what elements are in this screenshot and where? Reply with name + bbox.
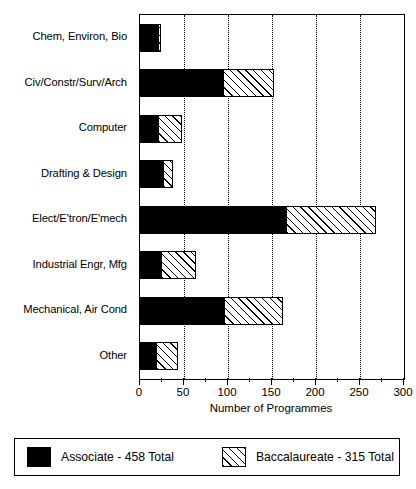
x-tick-major-0 <box>139 378 140 385</box>
bar-segment-baccalaureate[interactable] <box>159 115 182 143</box>
x-tick-major-150 <box>271 378 272 385</box>
x-tick-major-50 <box>183 378 184 385</box>
bar-row <box>140 288 404 334</box>
bar-stack[interactable] <box>140 297 283 325</box>
category-label-row: Industrial Engr, Mfg <box>0 242 133 288</box>
legend-item-baccalaureate: Baccalaureate - 315 Total <box>222 439 394 475</box>
x-tick-minor-225 <box>337 378 338 382</box>
chart-plot-region: Chem, Environ, Bio Civ/Constr/Surv/Arch … <box>0 0 416 420</box>
bar-row <box>140 106 404 152</box>
bar-segment-baccalaureate[interactable] <box>164 160 173 188</box>
bar-segment-associate[interactable] <box>140 342 157 370</box>
category-label-chem-environ-bio: Chem, Environ, Bio <box>32 31 133 42</box>
x-tick-major-100 <box>227 378 228 385</box>
bar-row <box>140 334 404 380</box>
legend-item-associate: Associate - 458 Total <box>27 439 174 475</box>
bar-stack[interactable] <box>140 24 161 52</box>
category-label-row: Elect/E'tron/E'mech <box>0 196 133 242</box>
bar-stack[interactable] <box>140 251 196 279</box>
bar-segment-baccalaureate[interactable] <box>159 24 161 52</box>
bar-row <box>140 197 404 243</box>
category-label-other: Other <box>100 350 133 361</box>
category-label-elect-etron-emech: Elect/E'tron/E'mech <box>32 213 133 224</box>
x-axis-ticks <box>139 378 403 386</box>
x-tick-label-50: 50 <box>177 387 190 399</box>
x-tick-label-300: 300 <box>393 387 412 399</box>
plot-frame <box>139 14 405 380</box>
bar-stack[interactable] <box>140 342 178 370</box>
bar-row <box>140 152 404 198</box>
legend-swatch-associate-icon <box>27 447 51 467</box>
x-tick-label-150: 150 <box>261 387 280 399</box>
x-tick-minor-125 <box>249 378 250 382</box>
chart-legend: Associate - 458 Total Baccalaureate - 31… <box>14 438 400 476</box>
bar-stack[interactable] <box>140 206 376 234</box>
bar-segment-associate[interactable] <box>140 206 287 234</box>
bar-chart-figure: Chem, Environ, Bio Civ/Constr/Surv/Arch … <box>0 0 416 489</box>
bar-segment-associate[interactable] <box>140 251 162 279</box>
legend-swatch-baccalaureate-icon <box>222 447 246 467</box>
x-tick-label-100: 100 <box>217 387 236 399</box>
x-axis-tick-labels: 050100150200250300 <box>139 387 403 401</box>
category-label-row: Other <box>0 333 133 379</box>
category-label-civ-constr-surv-arch: Civ/Constr/Surv/Arch <box>25 77 133 88</box>
bar-segment-associate[interactable] <box>140 115 159 143</box>
bar-row <box>140 15 404 61</box>
bar-segment-associate[interactable] <box>140 69 224 97</box>
x-tick-major-200 <box>315 378 316 385</box>
category-label-computer: Computer <box>79 122 133 133</box>
x-tick-label-200: 200 <box>305 387 324 399</box>
category-label-row: Computer <box>0 105 133 151</box>
category-label-mechanical-air-cond: Mechanical, Air Cond <box>23 304 133 315</box>
category-label-drafting-design: Drafting & Design <box>41 168 133 179</box>
category-label-row: Chem, Environ, Bio <box>0 14 133 60</box>
bar-segment-associate[interactable] <box>140 24 159 52</box>
category-axis-labels: Chem, Environ, Bio Civ/Constr/Surv/Arch … <box>0 14 133 378</box>
bars-layer <box>140 15 404 379</box>
x-tick-minor-25 <box>161 378 162 382</box>
bar-segment-associate[interactable] <box>140 160 164 188</box>
category-label-row: Mechanical, Air Cond <box>0 287 133 333</box>
x-tick-label-250: 250 <box>349 387 368 399</box>
bar-segment-associate[interactable] <box>140 297 225 325</box>
bar-row <box>140 243 404 289</box>
bar-segment-baccalaureate[interactable] <box>224 69 274 97</box>
x-tick-minor-275 <box>381 378 382 382</box>
x-axis-title: Number of Programmes <box>139 403 403 415</box>
legend-label-associate: Associate - 458 Total <box>61 451 174 463</box>
bar-segment-baccalaureate[interactable] <box>287 206 376 234</box>
x-tick-minor-175 <box>293 378 294 382</box>
category-label-industrial-engr-mfg: Industrial Engr, Mfg <box>33 259 133 270</box>
bar-segment-baccalaureate[interactable] <box>162 251 196 279</box>
x-tick-minor-75 <box>205 378 206 382</box>
x-tick-major-250 <box>359 378 360 385</box>
category-label-row: Civ/Constr/Surv/Arch <box>0 60 133 106</box>
x-tick-major-300 <box>403 378 404 385</box>
bar-stack[interactable] <box>140 115 182 143</box>
bar-stack[interactable] <box>140 160 173 188</box>
x-tick-label-0: 0 <box>136 387 142 399</box>
bar-row <box>140 61 404 107</box>
category-label-row: Drafting & Design <box>0 151 133 197</box>
bar-segment-baccalaureate[interactable] <box>225 297 282 325</box>
bar-segment-baccalaureate[interactable] <box>157 342 178 370</box>
bar-stack[interactable] <box>140 69 274 97</box>
legend-label-baccalaureate: Baccalaureate - 315 Total <box>256 451 394 463</box>
